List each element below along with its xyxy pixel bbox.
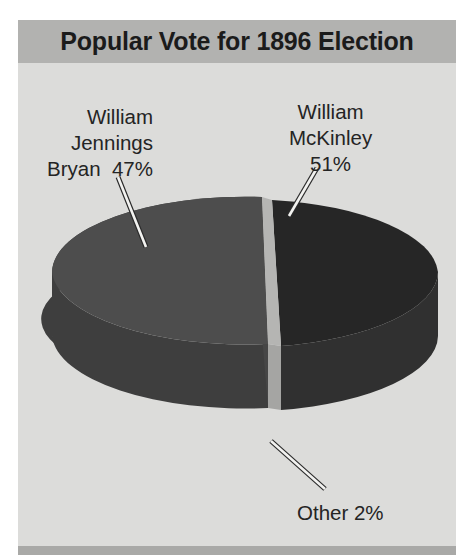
slice-label-mckinley: William McKinley 51% [289, 99, 372, 177]
slice-label-other: Other 2% [297, 500, 384, 526]
chart-figure: Popular Vote for 1896 Election [0, 0, 473, 555]
slice-label-bryan: William Jennings Bryan 47% [47, 104, 153, 182]
bottom-strip [18, 546, 456, 555]
leader-line-other-inner [271, 441, 325, 489]
pie-chart-3d [0, 0, 473, 555]
slice-side-other [268, 344, 281, 410]
